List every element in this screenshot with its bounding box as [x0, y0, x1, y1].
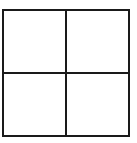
grid-cell-top-left: [4, 11, 65, 72]
grid-cell-bottom-right: [67, 74, 128, 135]
two-by-two-grid: [2, 9, 130, 137]
grid-cell-bottom-left: [4, 74, 65, 135]
grid-cell-top-right: [67, 11, 128, 72]
horizontal-divider: [4, 72, 128, 74]
